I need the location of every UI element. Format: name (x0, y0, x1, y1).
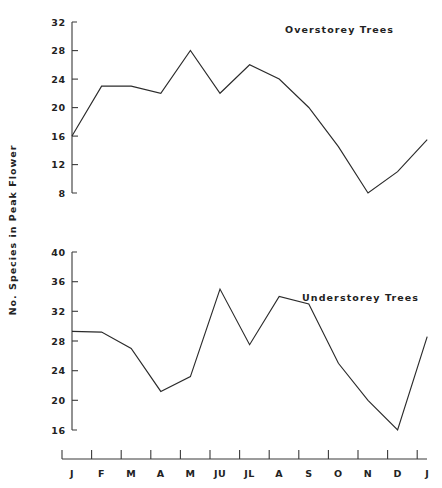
ytick-label: 24 (51, 74, 66, 85)
ytick-label: 28 (51, 45, 66, 56)
ytick-label: 20 (51, 102, 66, 113)
understorey-y-ticklabels: 40 36 32 28 24 20 16 (51, 247, 66, 436)
xtick-label: JL (243, 468, 255, 479)
xtick-label: D (393, 468, 401, 479)
xtick-label: A (157, 468, 165, 479)
ytick-label: 32 (51, 306, 66, 317)
x-axis: J F M A M JU JL A S O N D J (62, 450, 429, 479)
chart-panel-overstorey: 32 28 24 20 16 12 8 Overstorey Trees (51, 17, 427, 199)
chart-panel-understorey: 40 36 32 28 24 20 16 Understorey Trees (51, 247, 427, 436)
x-axis-ticklabels: J F M A M JU JL A S O N D J (69, 468, 429, 479)
understorey-panel-title: Understorey Trees (302, 292, 419, 303)
understorey-y-ticks (72, 282, 78, 401)
ytick-label: 16 (51, 131, 66, 142)
ytick-label: 32 (51, 17, 66, 28)
xtick-label: N (364, 468, 372, 479)
xtick-label: M (185, 468, 195, 479)
ytick-label: 16 (51, 425, 66, 436)
ytick-label: 36 (51, 276, 66, 287)
xtick-label: JU (213, 468, 226, 479)
phenology-figure: No. Species in Peak Flower 32 28 24 20 1… (0, 0, 442, 488)
overstorey-panel-title: Overstorey Trees (285, 24, 394, 35)
x-axis-ticks (62, 450, 417, 459)
ytick-label: 20 (51, 395, 66, 406)
understorey-series-line (72, 289, 427, 430)
overstorey-series-line (72, 51, 427, 194)
ytick-label: 8 (59, 188, 66, 199)
y-axis-label: No. Species in Peak Flower (7, 145, 18, 316)
xtick-label: J (69, 468, 74, 479)
xtick-label: J (424, 468, 429, 479)
overstorey-y-ticklabels: 32 28 24 20 16 12 8 (51, 17, 66, 199)
ytick-label: 40 (51, 247, 66, 258)
ytick-label: 12 (51, 159, 66, 170)
xtick-label: F (98, 468, 105, 479)
ytick-label: 24 (51, 365, 66, 376)
xtick-label: O (334, 468, 343, 479)
xtick-label: A (275, 468, 283, 479)
xtick-label: M (126, 468, 136, 479)
xtick-label: S (305, 468, 312, 479)
ytick-label: 28 (51, 336, 66, 347)
overstorey-y-ticks (72, 51, 78, 165)
